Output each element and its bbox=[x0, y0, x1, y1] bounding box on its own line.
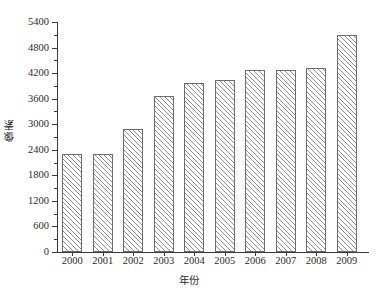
y-tick-label: 5400 bbox=[28, 17, 49, 28]
bar-2009 bbox=[337, 35, 357, 252]
y-tick-mark bbox=[52, 226, 57, 227]
x-tick-label-2008: 2008 bbox=[306, 256, 327, 267]
bar-chart-figure: 060012001800240030003600420048005400 200… bbox=[0, 0, 377, 292]
y-tick-minor-mark bbox=[54, 188, 57, 189]
y-tick-mark bbox=[52, 48, 57, 49]
x-tick-label-2004: 2004 bbox=[184, 256, 205, 267]
bar-2004 bbox=[184, 83, 204, 252]
y-tick-mark bbox=[52, 22, 57, 23]
y-axis-title: 像素 bbox=[2, 118, 16, 142]
y-tick-mark bbox=[52, 124, 57, 125]
x-axis-line bbox=[57, 252, 369, 253]
y-tick-mark bbox=[52, 201, 57, 202]
bar-2007 bbox=[276, 70, 296, 252]
y-tick-minor-mark bbox=[54, 111, 57, 112]
y-tick-label: 600 bbox=[33, 221, 49, 232]
bar-2008 bbox=[306, 68, 326, 252]
y-tick-minor-mark bbox=[54, 86, 57, 87]
x-tick-label-2006: 2006 bbox=[245, 256, 266, 267]
x-tick-label-2000: 2000 bbox=[62, 256, 83, 267]
x-tick-label-2007: 2007 bbox=[275, 256, 296, 267]
y-tick-minor-mark bbox=[54, 163, 57, 164]
x-tick-label-2001: 2001 bbox=[92, 256, 113, 267]
y-tick-minor-mark bbox=[54, 239, 57, 240]
y-tick-mark bbox=[52, 99, 57, 100]
y-tick-label: 1200 bbox=[28, 196, 49, 207]
y-tick-label: 4800 bbox=[28, 42, 49, 53]
bar-2005 bbox=[215, 80, 235, 253]
bar-2000 bbox=[62, 154, 82, 252]
y-tick-mark bbox=[52, 252, 57, 253]
y-tick-minor-mark bbox=[54, 60, 57, 61]
bar-2003 bbox=[154, 96, 174, 252]
bar-2006 bbox=[245, 70, 265, 252]
y-tick-label: 4200 bbox=[28, 68, 49, 79]
x-tick-label-2009: 2009 bbox=[336, 256, 357, 267]
y-tick-mark bbox=[52, 150, 57, 151]
y-tick-minor-mark bbox=[54, 214, 57, 215]
y-tick-label: 2400 bbox=[28, 145, 49, 156]
y-tick-label: 0 bbox=[44, 247, 49, 258]
x-tick-label-2002: 2002 bbox=[123, 256, 144, 267]
x-axis-title: 年份 bbox=[0, 272, 377, 287]
y-tick-label: 1800 bbox=[28, 170, 49, 181]
x-tick-label-2003: 2003 bbox=[153, 256, 174, 267]
y-tick-minor-mark bbox=[54, 35, 57, 36]
y-tick-label: 3600 bbox=[28, 93, 49, 104]
y-tick-minor-mark bbox=[54, 137, 57, 138]
bar-2002 bbox=[123, 129, 143, 252]
y-tick-mark bbox=[52, 175, 57, 176]
y-tick-label: 3000 bbox=[28, 119, 49, 130]
bar-2001 bbox=[93, 154, 113, 252]
y-tick-mark bbox=[52, 73, 57, 74]
x-tick-label-2005: 2005 bbox=[214, 256, 235, 267]
y-axis-line bbox=[57, 22, 58, 253]
